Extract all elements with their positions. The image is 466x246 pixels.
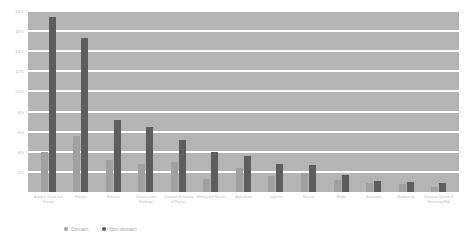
x-axis-tick-label: Mining and Metals — [195, 195, 228, 221]
bar — [81, 38, 88, 192]
y-axis: 18%16%14%12%10%8%6%4%2% — [0, 11, 27, 192]
y-axis-tick-label: 10% — [15, 89, 24, 94]
y-axis-tick-label: 4% — [18, 149, 24, 154]
bar — [309, 165, 316, 192]
bar — [171, 162, 178, 192]
bar-group — [325, 11, 358, 192]
x-axis-tick-label: Media — [325, 195, 358, 221]
bar-chart: 18%16%14%12%10%8%6%4%2% Aviation Travel … — [0, 0, 466, 246]
bar — [268, 176, 275, 192]
bar-group — [97, 11, 130, 192]
chart-legend: DomainNon-domain — [64, 226, 136, 232]
bar — [342, 175, 349, 192]
y-axis-tick-label: 6% — [18, 129, 24, 134]
x-axis-tick-label: Quantum Economy & Physics — [162, 195, 195, 221]
bar — [439, 183, 446, 192]
bar — [407, 182, 414, 192]
x-axis-tick-label: Infrastructure Buildings — [130, 195, 163, 221]
bar-group — [162, 11, 195, 192]
bar — [73, 136, 80, 192]
bar — [203, 179, 210, 192]
bar — [399, 184, 406, 192]
x-axis-tick-label: Financial System & Monitoring Risk — [422, 195, 455, 221]
bar — [106, 160, 113, 192]
bar-group — [390, 11, 423, 192]
legend-item[interactable]: Domain — [64, 226, 88, 232]
bar — [244, 156, 251, 192]
legend-swatch-icon — [64, 227, 68, 231]
bar-group — [32, 11, 65, 192]
x-axis-tick-label: Forests — [65, 195, 98, 221]
bar — [334, 180, 341, 192]
x-axis-tick-label: Sanitation — [357, 195, 390, 221]
legend-label: Non-domain — [109, 226, 136, 232]
legend-label: Domain — [71, 226, 88, 232]
bar-group — [65, 11, 98, 192]
plot-area — [28, 11, 459, 192]
bar — [211, 152, 218, 192]
y-axis-tick-label: 14% — [15, 49, 24, 54]
bar-group — [292, 11, 325, 192]
bar — [146, 127, 153, 192]
x-axis-tick-label: Biodiversity — [390, 195, 423, 221]
bar-group — [422, 11, 455, 192]
bar-group — [130, 11, 163, 192]
y-axis-tick-label: 2% — [18, 169, 24, 174]
x-axis-tick-label: Aviation Travel and Tourism — [32, 195, 65, 221]
bar — [366, 183, 373, 192]
bar — [138, 164, 145, 192]
bar-group — [195, 11, 228, 192]
x-axis-tick-label: Materials — [97, 195, 130, 221]
y-axis-tick-label: 8% — [18, 109, 24, 114]
bar — [431, 187, 438, 192]
bar-group — [227, 11, 260, 192]
bar — [49, 17, 56, 192]
bar — [374, 181, 381, 192]
bar — [276, 164, 283, 192]
bar — [301, 173, 308, 192]
bar — [236, 168, 243, 192]
y-axis-tick-label: 16% — [15, 29, 24, 34]
bar-groups — [28, 11, 459, 192]
legend-item[interactable]: Non-domain — [102, 226, 136, 232]
bar-group — [260, 11, 293, 192]
bar-group — [357, 11, 390, 192]
legend-swatch-icon — [102, 227, 106, 231]
x-axis-tick-label: Logistics — [260, 195, 293, 221]
x-axis-tick-label: Security — [292, 195, 325, 221]
x-axis: Aviation Travel and TourismForestsMateri… — [28, 195, 459, 221]
y-axis-tick-label: 18% — [15, 9, 24, 14]
x-axis-tick-label: Agriculture — [227, 195, 260, 221]
bar — [179, 140, 186, 192]
bar — [114, 120, 121, 192]
bar — [41, 152, 48, 192]
y-axis-tick-label: 12% — [15, 69, 24, 74]
